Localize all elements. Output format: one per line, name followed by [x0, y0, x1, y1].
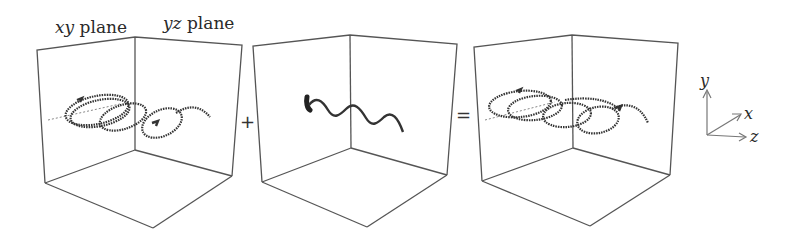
xy-plane-label: xy plane [55, 17, 127, 37]
yz-plane-label: yz plane [162, 13, 234, 33]
diagram-canvas: xy plane yz plane + = [0, 0, 792, 239]
axis-indicator: y x z [699, 71, 759, 146]
wave-curve [307, 97, 403, 132]
plus-operator: + [240, 111, 255, 132]
panel-combined-box [474, 35, 678, 226]
y-axis-label: y [699, 71, 710, 90]
helix-curve [48, 90, 210, 144]
x-axis-label: x [744, 104, 753, 123]
equals-operator: = [456, 104, 471, 125]
z-axis-label: z [749, 127, 759, 146]
combined-curve [485, 88, 648, 137]
panel-helix-box [37, 37, 242, 228]
panel-wave-box [253, 35, 457, 227]
